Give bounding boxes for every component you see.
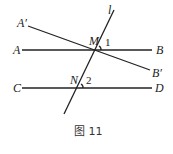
label-B-prime: B′ bbox=[152, 66, 162, 80]
label-angle-1: 1 bbox=[105, 36, 111, 48]
geometry-figure: l A′ A B B′ C D M N 1 2 图 11 bbox=[0, 0, 173, 154]
label-angle-2: 2 bbox=[86, 74, 92, 86]
label-A: A bbox=[12, 43, 21, 57]
line-l bbox=[64, 10, 114, 114]
label-B: B bbox=[156, 43, 164, 57]
figure-caption: 图 11 bbox=[74, 125, 103, 138]
label-N: N bbox=[69, 73, 79, 87]
diagram-canvas: l A′ A B B′ C D M N 1 2 图 11 bbox=[0, 0, 173, 154]
label-A-prime: A′ bbox=[16, 16, 27, 30]
label-M: M bbox=[88, 34, 100, 48]
label-D: D bbox=[154, 81, 164, 95]
label-C: C bbox=[13, 81, 22, 95]
